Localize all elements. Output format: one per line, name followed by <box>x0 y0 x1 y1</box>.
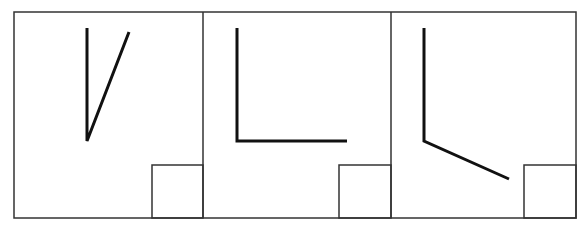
angle-rays <box>87 28 129 141</box>
angle-rays <box>424 28 509 179</box>
panel-3-obtuse-angle <box>424 28 576 218</box>
corner-box <box>524 165 576 218</box>
angle-diagram: Three panels each showing an angle forme… <box>0 0 587 229</box>
angle-panels <box>87 28 576 218</box>
panel-1-acute-angle <box>87 28 203 218</box>
corner-box <box>152 165 203 218</box>
angle-diagram-svg <box>0 0 587 229</box>
angle-rays <box>237 28 347 141</box>
panel-2-right-angle <box>237 28 391 218</box>
panel-dividers <box>203 12 391 218</box>
corner-box <box>339 165 391 218</box>
